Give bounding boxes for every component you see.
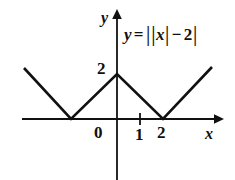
y-axis-label: y	[101, 10, 108, 26]
x-axis-arrow-icon	[214, 114, 224, 124]
y-axis-arrow-icon	[112, 9, 122, 19]
equation-constant: 2	[184, 25, 193, 44]
origin-label: 0	[94, 124, 103, 141]
math-figure: y=||x|−2| y x 2 0 1 2	[0, 0, 235, 180]
equation-lhs: y	[124, 25, 132, 44]
equation-inner-bar-close: |	[165, 24, 170, 44]
x-tick-label-2: 2	[157, 124, 166, 141]
equation-outer-bar-close: |	[193, 24, 198, 44]
equation-inner-bar-open: |	[151, 24, 156, 44]
x-axis-label: x	[205, 126, 213, 142]
equation-equals: =	[132, 25, 146, 44]
graph-canvas	[0, 0, 235, 180]
equation-variable: x	[156, 25, 165, 44]
equation-label: y=||x|−2|	[124, 26, 198, 43]
equation-minus: −	[170, 25, 184, 44]
curve-abs-abs-x-minus-2	[24, 67, 212, 119]
y-tick-label-2: 2	[97, 60, 106, 77]
x-tick-label-1: 1	[135, 126, 144, 143]
